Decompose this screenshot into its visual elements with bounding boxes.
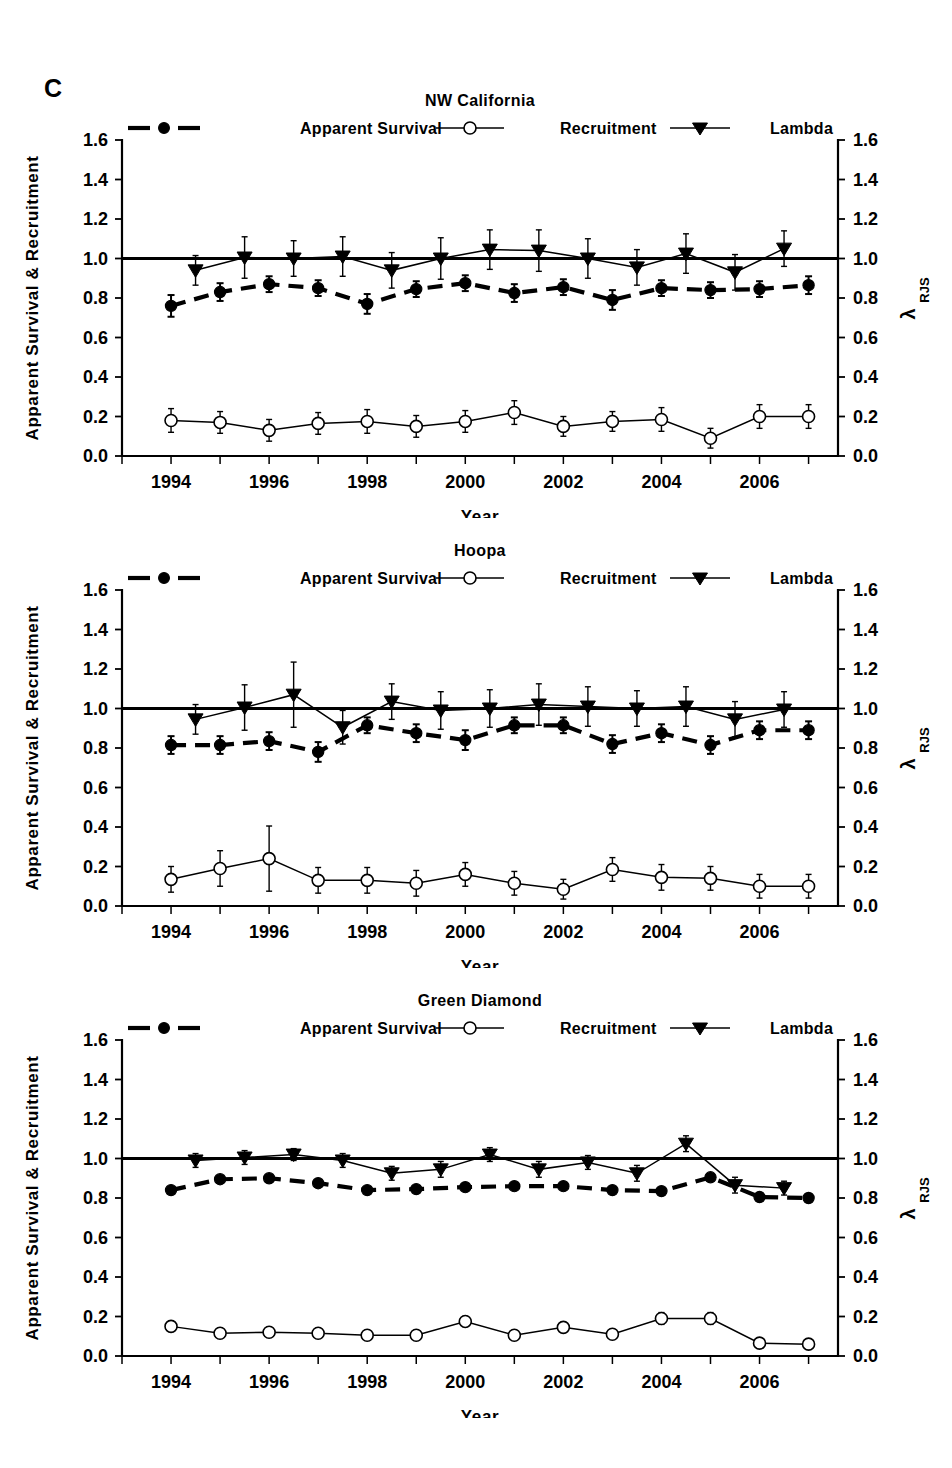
data-point-open-circle <box>754 880 766 892</box>
legend-marker-triangle-down-icon <box>693 573 708 585</box>
x-tick-label: 1998 <box>347 1372 387 1392</box>
x-tick-label: 2000 <box>445 472 485 492</box>
legend-marker-triangle-down-icon <box>693 1023 708 1035</box>
legend-label-0: Apparent Survival <box>300 1020 442 1037</box>
y-tick-label: 1.2 <box>83 209 108 229</box>
y2-tick-label: 1.4 <box>853 1070 878 1090</box>
data-point-open-circle <box>361 874 373 886</box>
x-tick-label: 2006 <box>740 1372 780 1392</box>
data-point-filled-circle <box>656 1185 667 1196</box>
data-point-filled-circle <box>264 735 275 746</box>
data-point-open-circle <box>704 872 716 884</box>
x-tick-label: 1994 <box>151 472 191 492</box>
data-point-filled-circle <box>509 1181 520 1192</box>
data-point-open-circle <box>214 1327 226 1339</box>
data-point-open-circle <box>803 1338 815 1350</box>
data-point-open-circle <box>655 871 667 883</box>
chart-title: Hoopa <box>454 542 506 559</box>
y-tick-label: 0.0 <box>83 446 108 466</box>
data-point-filled-circle <box>460 1182 471 1193</box>
chart-title: Green Diamond <box>418 992 542 1009</box>
y2-tick-label: 0.8 <box>853 288 878 308</box>
data-point-open-circle <box>263 1326 275 1338</box>
data-point-open-circle <box>606 863 618 875</box>
data-point-open-circle <box>165 873 177 885</box>
left-and-bottom-axis <box>122 590 838 906</box>
markers-recruitment <box>165 853 815 896</box>
y2-tick-label: 1.0 <box>853 699 878 719</box>
data-point-open-circle <box>704 432 716 444</box>
x-tick-label: 1998 <box>347 922 387 942</box>
x-axis-ticks: 1994199619982000200220042006 <box>122 456 809 492</box>
data-point-open-circle <box>606 1328 618 1340</box>
data-point-filled-circle <box>754 725 765 736</box>
data-point-triangle-down <box>777 243 792 256</box>
y2-tick-label: 1.6 <box>853 130 878 150</box>
legend-marker-open-circle-icon <box>464 572 476 584</box>
y-tick-label: 1.0 <box>83 699 108 719</box>
data-point-triangle-down <box>384 1168 399 1181</box>
data-point-filled-circle <box>411 1184 422 1195</box>
markers-apparent-survival <box>165 278 814 312</box>
x-axis-title: Year <box>461 507 499 518</box>
y-tick-label: 1.2 <box>83 1109 108 1129</box>
data-point-triangle-down <box>188 714 203 727</box>
data-point-filled-circle <box>607 738 618 749</box>
data-point-open-circle <box>263 853 275 865</box>
y-tick-label: 0.4 <box>83 817 108 837</box>
data-point-filled-circle <box>754 1191 765 1202</box>
y2-tick-label: 1.4 <box>853 170 878 190</box>
y2-tick-label: 1.6 <box>853 580 878 600</box>
data-point-filled-circle <box>313 1178 324 1189</box>
data-point-open-circle <box>165 414 177 426</box>
data-point-filled-circle <box>558 1181 569 1192</box>
data-point-open-circle <box>214 416 226 428</box>
data-point-open-circle <box>410 420 422 432</box>
data-point-triangle-down <box>629 1168 644 1181</box>
data-point-open-circle <box>214 862 226 874</box>
data-point-filled-circle <box>558 282 569 293</box>
y-tick-label: 0.8 <box>83 288 108 308</box>
data-point-open-circle <box>803 880 815 892</box>
data-point-filled-circle <box>362 1185 373 1196</box>
y-tick-label: 1.6 <box>83 580 108 600</box>
x-tick-label: 2004 <box>641 472 681 492</box>
x-tick-label: 2004 <box>641 1372 681 1392</box>
legend-marker-triangle-down-icon <box>693 123 708 135</box>
data-point-open-circle <box>312 874 324 886</box>
y-tick-label: 1.4 <box>83 170 108 190</box>
data-point-open-circle <box>459 415 471 427</box>
data-point-filled-circle <box>705 285 716 296</box>
x-axis-ticks: 1994199619982000200220042006 <box>122 1356 809 1392</box>
x-tick-label: 1994 <box>151 922 191 942</box>
y-tick-label: 1.6 <box>83 1030 108 1050</box>
data-point-open-circle <box>557 1321 569 1333</box>
y2-tick-label: 0.2 <box>853 1307 878 1327</box>
data-point-filled-circle <box>264 1173 275 1184</box>
y2-tick-label: 1.4 <box>853 620 878 640</box>
data-point-filled-circle <box>362 720 373 731</box>
x-tick-label: 1996 <box>249 1372 289 1392</box>
y-tick-label: 0.8 <box>83 738 108 758</box>
y-tick-label: 0.0 <box>83 1346 108 1366</box>
y2-tick-label: 0.6 <box>853 778 878 798</box>
data-point-open-circle <box>508 877 520 889</box>
data-point-open-circle <box>263 424 275 436</box>
y2-tick-label: 0.6 <box>853 328 878 348</box>
x-tick-label: 2002 <box>543 922 583 942</box>
x-axis-title: Year <box>461 957 499 968</box>
y-tick-label: 1.0 <box>83 249 108 269</box>
data-point-filled-circle <box>411 728 422 739</box>
x-tick-label: 1996 <box>249 472 289 492</box>
data-point-filled-circle <box>214 286 225 297</box>
chart-nw-california: NW CaliforniaApparent SurvivalRecruitmen… <box>0 78 952 518</box>
y2-tick-label: 0.4 <box>853 367 878 387</box>
data-point-open-circle <box>655 1312 667 1324</box>
y2-tick-label: 0.2 <box>853 857 878 877</box>
figure-panel-c: C NW CaliforniaApparent SurvivalRecruitm… <box>0 0 952 1468</box>
data-point-open-circle <box>165 1320 177 1332</box>
y2-tick-label: 0.8 <box>853 1188 878 1208</box>
data-point-filled-circle <box>214 739 225 750</box>
lambda-subscript: RJS <box>917 727 932 753</box>
legend-marker-filled-circle-icon <box>159 573 170 584</box>
